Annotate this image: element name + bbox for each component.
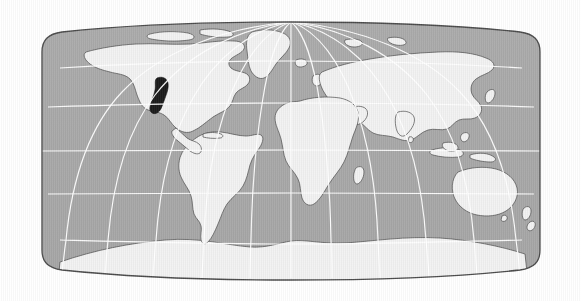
map-body [42,22,540,281]
landmass-caribbean [203,133,223,139]
page-root [0,0,581,301]
world-map-svg [0,0,581,301]
landmass-iceland [295,59,307,67]
world-map-figure [0,0,581,301]
landmass-sri-lanka [408,137,413,143]
landmass-tasmania [501,215,507,221]
